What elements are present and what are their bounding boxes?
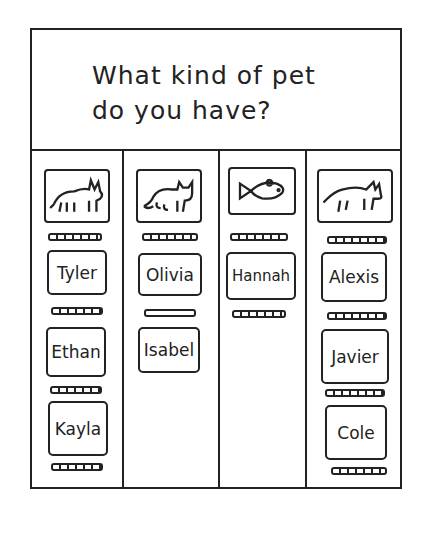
fish-icon (228, 167, 296, 215)
name-card: Olivia (138, 253, 202, 296)
horse-icon (317, 169, 393, 223)
column-fish: Hannah (220, 149, 307, 487)
pet-survey-poster: What kind of pet do you have? Tyler Etha… (30, 28, 402, 489)
title-line-1: What kind of pet (92, 58, 316, 93)
cat-icon (136, 169, 202, 223)
name-card: Isabel (138, 327, 200, 373)
column-dog: Tyler Ethan Kayla (32, 149, 124, 487)
tally-strip (50, 386, 102, 394)
name-card: Tyler (47, 250, 107, 295)
wavy-strip (144, 309, 196, 317)
column-horse: Alexis Javier Cole (307, 149, 404, 487)
dog-icon (44, 169, 110, 223)
column-cat: Olivia Isabel (124, 149, 220, 487)
name-card: Kayla (48, 401, 108, 456)
tally-strip (327, 236, 387, 244)
poster-header: What kind of pet do you have? (32, 30, 400, 151)
name-card: Alexis (321, 252, 387, 302)
tally-strip (232, 310, 286, 318)
poster-title: What kind of pet do you have? (92, 58, 316, 128)
name-card: Javier (321, 329, 389, 384)
tally-strip (331, 467, 387, 475)
title-line-2: do you have? (92, 93, 316, 128)
tally-strip (325, 389, 385, 397)
tally-strip (230, 233, 288, 241)
name-card: Ethan (46, 327, 106, 377)
name-card: Hannah (226, 252, 296, 300)
tally-strip (327, 312, 387, 320)
tally-strip (142, 233, 198, 241)
tally-strip (51, 463, 103, 471)
tally-strip (51, 307, 103, 315)
tally-strip (48, 233, 102, 241)
name-card: Cole (325, 405, 387, 460)
